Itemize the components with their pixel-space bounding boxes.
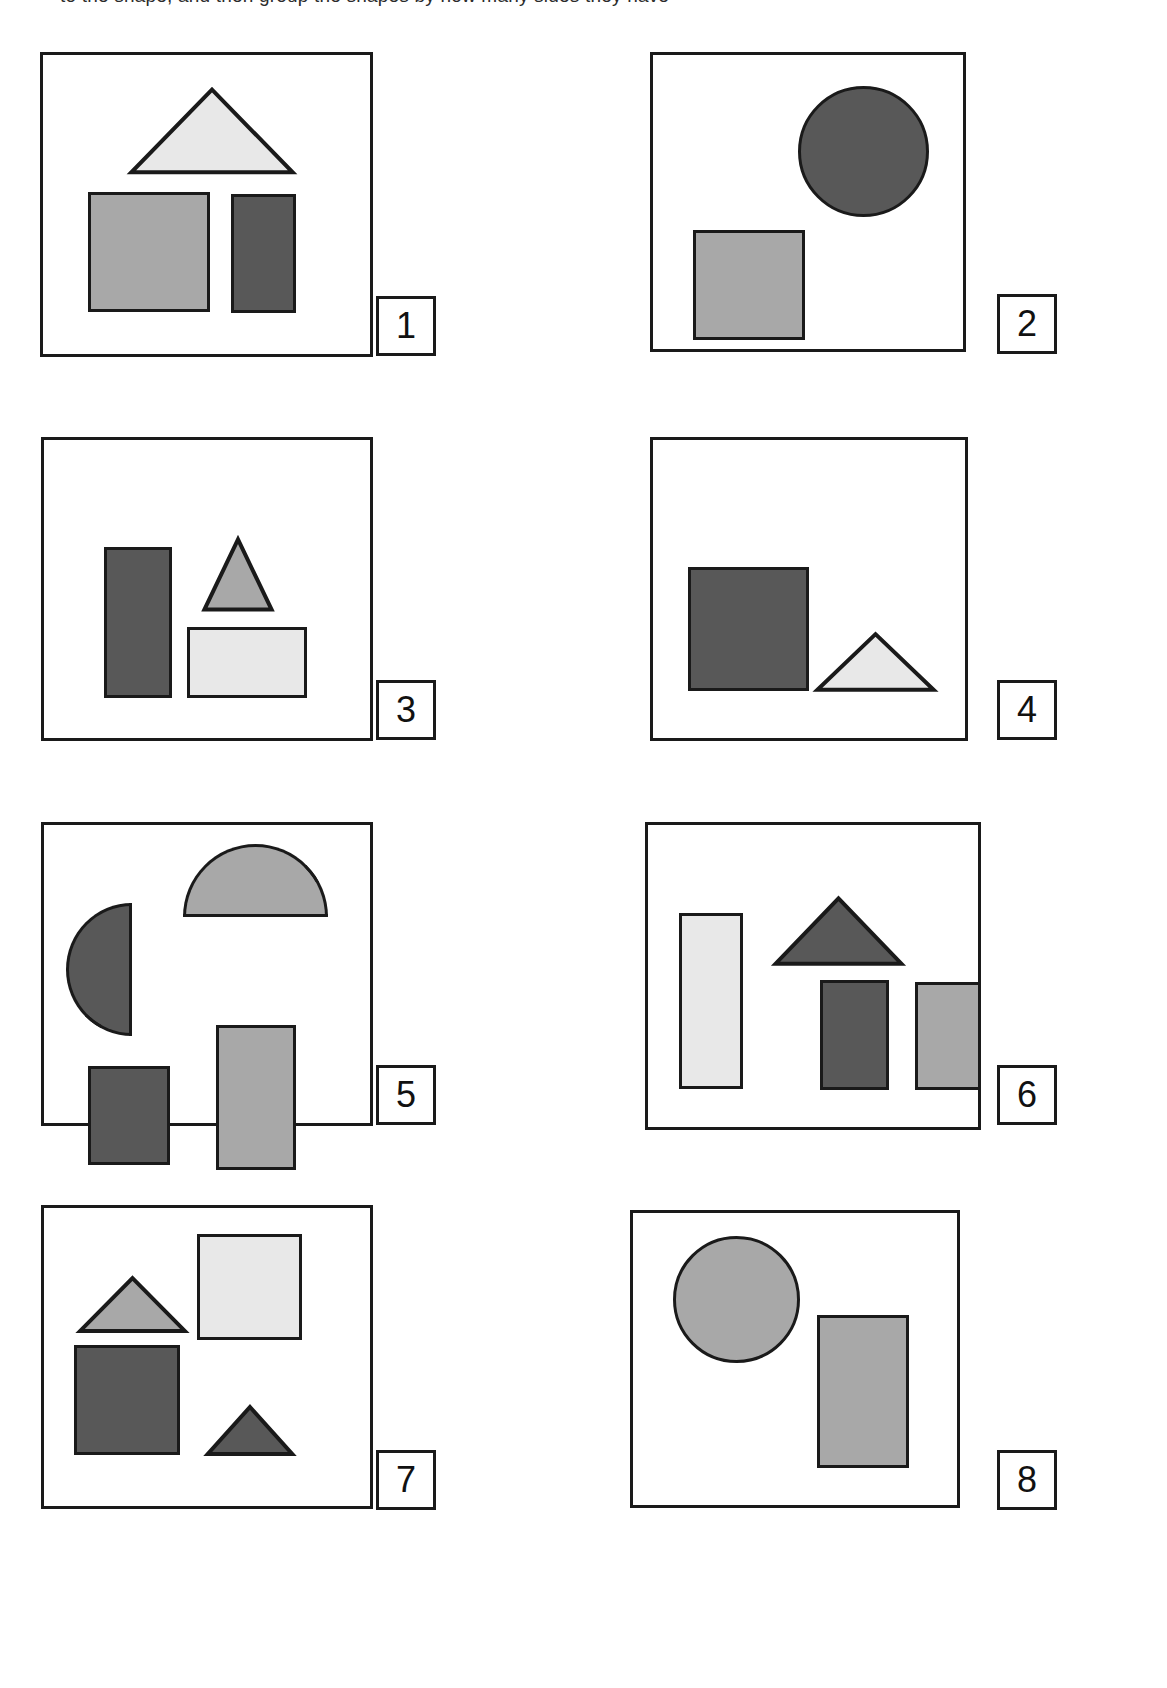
- panel-label-box-3[interactable]: 3: [376, 680, 436, 740]
- panel-1-triangle-light: [128, 88, 296, 174]
- panel-8-circle-medium: [673, 1236, 800, 1363]
- panel-border-8: [630, 1210, 960, 1508]
- panel-2-circle-dark: [798, 86, 929, 217]
- panel-7-square-light: [197, 1234, 302, 1340]
- panel-3-square-light: [187, 627, 307, 698]
- panel-label-box-4[interactable]: 4: [997, 680, 1057, 740]
- panel-3-triangle-medium: [203, 538, 273, 611]
- panel-6-rect-dark: [820, 980, 889, 1090]
- panel-7-triangle-medium: [78, 1277, 187, 1332]
- panel-label-box-6[interactable]: 6: [997, 1065, 1057, 1125]
- panel-8-rect-medium: [817, 1315, 909, 1468]
- panel-number-label: 5: [396, 1077, 416, 1113]
- panel-number-label: 4: [1017, 692, 1037, 728]
- panel-label-box-1[interactable]: 1: [376, 296, 436, 356]
- panel-2-square-medium: [693, 230, 805, 340]
- panel-number-label: 3: [396, 692, 416, 728]
- panel-7-triangle-dark: [206, 1406, 294, 1455]
- panel-label-box-5[interactable]: 5: [376, 1065, 436, 1125]
- panel-number-label: 6: [1017, 1077, 1037, 1113]
- panel-number-label: 2: [1017, 306, 1037, 342]
- panel-label-box-8[interactable]: 8: [997, 1450, 1057, 1510]
- panel-number-label: 1: [396, 308, 416, 344]
- panel-1-square-medium: [88, 192, 210, 312]
- panel-4-triangle-light: [815, 633, 936, 691]
- panel-5-rect-dark: [88, 1066, 170, 1165]
- panel-6-triangle-dark: [773, 897, 904, 965]
- panel-1-rect-dark: [231, 194, 296, 313]
- panel-3-rect-dark-tall: [104, 547, 172, 698]
- panel-label-box-7[interactable]: 7: [376, 1450, 436, 1510]
- panel-7-square-dark: [74, 1345, 180, 1455]
- panel-4-square-dark: [688, 567, 809, 691]
- panel-number-label: 8: [1017, 1462, 1037, 1498]
- panel-5-rect-medium: [216, 1025, 296, 1170]
- panel-label-box-2[interactable]: 2: [997, 294, 1057, 354]
- shape-panel-grid: 12345678: [0, 0, 1167, 1688]
- panel-6-rect-light-tall: [679, 913, 743, 1089]
- panel-6-rect-medium: [915, 982, 981, 1090]
- panel-number-label: 7: [396, 1462, 416, 1498]
